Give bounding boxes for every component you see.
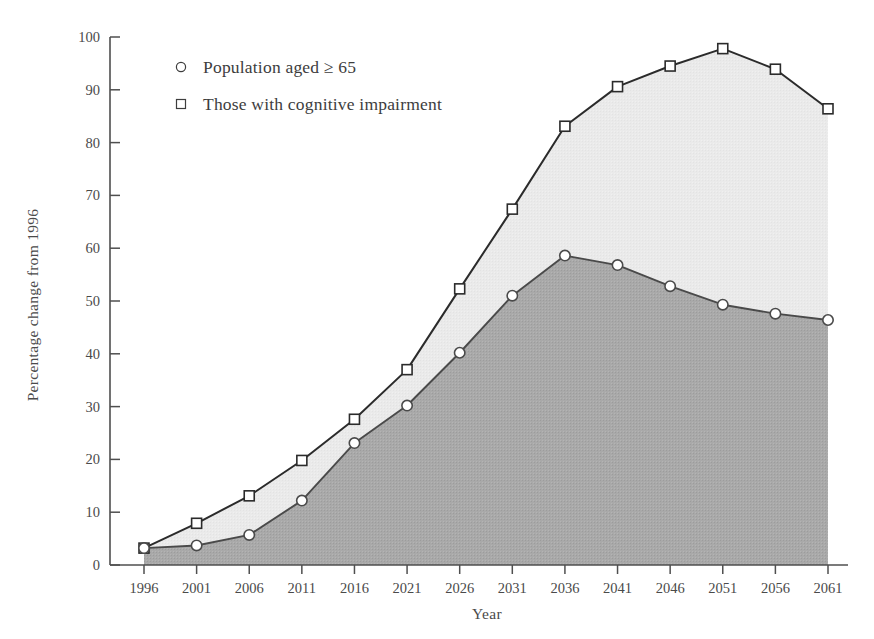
data-point-marker-circle (349, 438, 359, 448)
x-tick-label: 2056 (761, 580, 790, 596)
data-point-marker-circle (244, 530, 254, 540)
x-axis-title: Year (472, 605, 502, 622)
legend-item-label-population: Population aged ≥ 65 (203, 57, 356, 77)
legend-square-marker-icon (177, 100, 186, 109)
data-point-marker-square (770, 64, 780, 74)
data-point-marker-square (192, 518, 202, 528)
x-tick-label: 2026 (445, 580, 474, 596)
chart-figure: 0102030405060708090100 19962001200620112… (0, 0, 874, 639)
x-tick-label: 2011 (288, 580, 316, 596)
legend-circle-marker-icon (176, 62, 185, 71)
x-tick-label: 2036 (550, 580, 579, 596)
data-point-marker-circle (718, 299, 728, 309)
data-point-marker-square (560, 121, 570, 131)
data-point-marker-square (349, 414, 359, 424)
x-tick-label: 2016 (340, 580, 369, 596)
data-point-marker-circle (507, 291, 517, 301)
data-point-marker-circle (770, 308, 780, 318)
data-point-marker-square (297, 455, 307, 465)
data-point-marker-square (665, 61, 675, 71)
y-tick-label: 30 (86, 399, 101, 415)
data-point-marker-circle (612, 260, 622, 270)
y-axis-title: Percentage change from 1996 (24, 209, 41, 402)
data-point-marker-circle (297, 495, 307, 505)
data-point-marker-square (718, 44, 728, 54)
data-point-marker-circle (823, 315, 833, 325)
y-tick-label: 0 (93, 557, 100, 573)
y-tick-label: 100 (78, 29, 100, 45)
data-point-marker-square (613, 82, 623, 92)
data-point-marker-circle (139, 543, 149, 553)
data-point-marker-circle (191, 540, 201, 550)
x-tick-label: 2006 (235, 580, 264, 596)
data-point-marker-square (507, 204, 517, 214)
data-point-marker-square (823, 104, 833, 114)
data-point-marker-circle (402, 400, 412, 410)
x-tick-label: 2021 (393, 580, 422, 596)
percentage-change-line-chart: 0102030405060708090100 19962001200620112… (0, 0, 874, 639)
data-point-marker-square (455, 284, 465, 294)
y-tick-label: 20 (86, 451, 101, 467)
x-tick-label: 2051 (708, 580, 737, 596)
x-tick-label: 2001 (182, 580, 211, 596)
y-tick-label: 10 (86, 504, 101, 520)
x-tick-label: 2061 (814, 580, 843, 596)
y-tick-label: 80 (86, 135, 101, 151)
y-tick-label: 40 (86, 346, 101, 362)
data-point-marker-circle (560, 250, 570, 260)
y-tick-label: 70 (86, 187, 101, 203)
legend-item-label-cognitive: Those with cognitive impairment (203, 94, 442, 114)
x-tick-label: 1996 (130, 580, 159, 596)
y-tick-label: 90 (86, 82, 101, 98)
x-tick-label: 2046 (656, 580, 685, 596)
data-point-marker-square (402, 365, 412, 375)
x-tick-label: 2041 (603, 580, 632, 596)
data-point-marker-square (244, 491, 254, 501)
x-tick-label: 2031 (498, 580, 527, 596)
data-point-marker-circle (454, 348, 464, 358)
y-tick-label: 50 (86, 293, 101, 309)
data-point-marker-circle (665, 281, 675, 291)
y-tick-label: 60 (86, 240, 101, 256)
